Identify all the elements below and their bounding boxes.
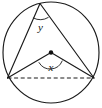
inscribed-angle-label: y: [37, 21, 43, 33]
circle-center-dot: [49, 50, 53, 54]
central-angle-label: x: [48, 61, 54, 73]
center-to-right-radius: [51, 53, 94, 79]
apex-to-left-chord: [8, 4, 41, 79]
center-to-left-radius: [8, 53, 52, 79]
geometry-diagram: y x: [0, 0, 102, 108]
inscribed-angle-arc: [33, 18, 48, 20]
geometry-figure: y x: [0, 0, 102, 108]
